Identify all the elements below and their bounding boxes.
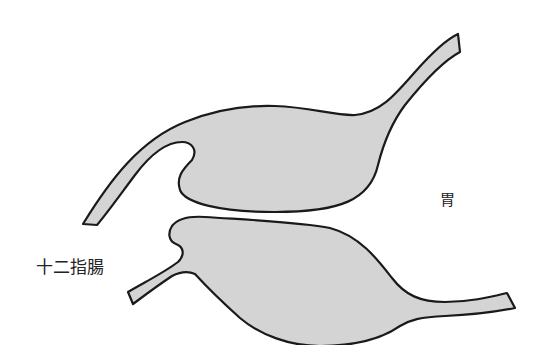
lower-wall-shape: [128, 217, 515, 345]
pylorus-diagram: [0, 0, 548, 345]
duodenum-label: 十二指腸: [36, 253, 104, 278]
upper-wall-shape: [83, 34, 460, 225]
stomach-label: 胃: [440, 188, 455, 209]
